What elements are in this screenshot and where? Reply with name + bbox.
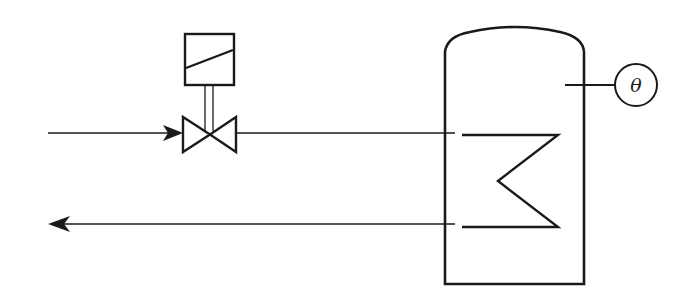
- heating-coil: [462, 135, 558, 227]
- temperature-sensor: [565, 64, 657, 106]
- diagram-canvas: θ: [0, 0, 693, 299]
- sensor-symbol: θ: [630, 74, 642, 96]
- process-diagram: θ: [0, 0, 693, 299]
- return-line: [48, 216, 455, 232]
- solenoid-valve: [183, 34, 236, 152]
- valve-right-triangle-icon: [210, 117, 236, 152]
- valve-left-triangle-icon: [183, 117, 210, 152]
- supply-line: [48, 125, 183, 141]
- storage-tank: [445, 27, 584, 284]
